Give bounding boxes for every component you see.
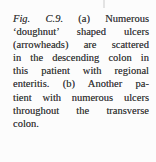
caption-line: (arrowheads) are scattered: [13, 38, 149, 51]
caption-line: Fig. C.9. (a) Numerous: [13, 12, 149, 25]
caption-line-last: colon.: [13, 117, 149, 130]
figure-label: Fig. C.9.: [13, 13, 63, 24]
scanned-page-region: Fig. C.9. (a) Numerous ‘doughnut’ shaped…: [0, 0, 156, 162]
caption-line: in the descending colon in: [13, 51, 149, 64]
figure-caption: Fig. C.9. (a) Numerous ‘doughnut’ shaped…: [13, 12, 149, 130]
caption-line: enteritis. (b) Another pa-: [13, 77, 149, 90]
caption-line: tient with numerous ulcers: [13, 91, 149, 104]
caption-line: ‘doughnut’ shaped ulcers: [13, 25, 149, 38]
caption-line-text: (a) Numerous: [78, 13, 149, 24]
scan-artifact-mark: [103, 0, 105, 8]
caption-line: this patient with regional: [13, 64, 149, 77]
caption-line: throughout the transverse: [13, 104, 149, 117]
